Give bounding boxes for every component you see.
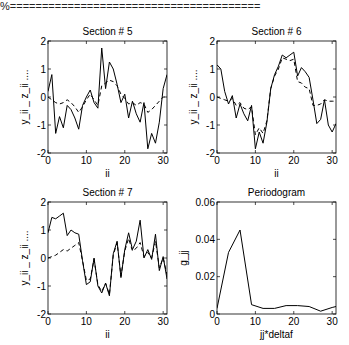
y-tick-label: 0 (40, 253, 46, 264)
x-tick-label: 10 (81, 155, 93, 166)
subplot-3: 0102030-2-1012Section # 7iiy_ii _ z_ii .… (19, 187, 169, 340)
x-tick-label: 0 (214, 316, 220, 327)
y-tick-label: -1 (206, 120, 215, 131)
y-tick-label: -1 (37, 281, 46, 292)
axes-box (48, 202, 167, 314)
figure: 0102030-2-1012Section # 5iiy_ii _ z_ii .… (0, 0, 349, 345)
y-tick-label: 0 (40, 92, 46, 103)
x-tick-label: 20 (288, 155, 300, 166)
y-axis-label: y_ii _ z_ii .... (188, 69, 199, 124)
axes-box (217, 202, 336, 314)
y-tick-label: 0.02 (196, 271, 216, 282)
chart-title: Periodogram (248, 187, 305, 198)
x-axis-label: jj*deltaf (259, 329, 293, 340)
y-tick-label: -2 (206, 148, 215, 159)
x-tick-label: 20 (119, 155, 131, 166)
y-tick-label: 2 (40, 197, 46, 208)
y-axis-label: y_ii _ z_ii .... (19, 69, 30, 124)
x-tick-label: 30 (158, 316, 170, 327)
y-tick-label: 1 (40, 64, 46, 75)
axes-box (217, 41, 336, 153)
x-tick-label: 20 (119, 316, 131, 327)
y-tick-label: 0 (209, 309, 215, 320)
y-tick-label: 2 (40, 36, 46, 47)
x-tick-label: 0 (45, 155, 51, 166)
x-axis-label: ii (105, 168, 109, 179)
x-tick-label: 10 (250, 155, 262, 166)
x-axis-label: ii (105, 329, 109, 340)
y-tick-label: 0.04 (196, 234, 216, 245)
y-axis-label: y_ii _ z_ii .... (19, 230, 30, 285)
x-tick-label: 30 (158, 155, 170, 166)
x-axis-label: ii (274, 168, 278, 179)
y-tick-label: -1 (37, 120, 46, 131)
y-tick-label: 1 (40, 225, 46, 236)
subplot-4: 010203000.020.040.06Periodogramjj*deltaf… (178, 187, 338, 340)
x-tick-label: 0 (45, 316, 51, 327)
y-axis-label: g_jj (178, 250, 189, 266)
subplot-2: 0102030-2-1012Section # 6iiy_ii _ z_ii .… (188, 26, 338, 179)
y-tick-label: 1 (209, 64, 215, 75)
chart-title: Section # 7 (82, 187, 132, 198)
y-tick-label: 0.06 (196, 197, 216, 208)
x-tick-label: 0 (214, 155, 220, 166)
y-tick-label: -2 (37, 309, 46, 320)
x-tick-label: 30 (327, 155, 339, 166)
axes-box (48, 41, 167, 153)
x-tick-label: 20 (288, 316, 300, 327)
y-tick-label: 0 (209, 92, 215, 103)
x-tick-label: 10 (81, 316, 93, 327)
y-tick-label: -2 (37, 148, 46, 159)
x-tick-label: 10 (250, 316, 262, 327)
x-tick-label: 30 (327, 316, 339, 327)
subplot-1: 0102030-2-1012Section # 5iiy_ii _ z_ii .… (19, 26, 169, 179)
chart-title: Section # 6 (251, 26, 301, 37)
chart-title: Section # 5 (82, 26, 132, 37)
y-tick-label: 2 (209, 36, 215, 47)
